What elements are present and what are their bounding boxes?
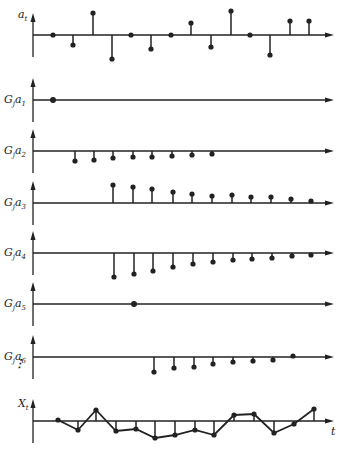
arrow-up-icon (31, 399, 36, 408)
data-point (170, 264, 175, 269)
arrow-right-icon (325, 33, 334, 38)
data-point (308, 252, 313, 257)
data-point (208, 44, 213, 49)
arrow-right-icon (325, 201, 334, 206)
data-point (91, 157, 96, 162)
data-point (148, 46, 153, 51)
time-axis-label: t (331, 425, 336, 438)
arrow-up-icon (31, 282, 36, 291)
arrow-right-icon (325, 419, 334, 424)
data-point (190, 261, 195, 266)
data-point (209, 193, 214, 198)
arrow-up-icon (31, 181, 36, 190)
panel-label: Gja5 (4, 297, 27, 312)
data-point (70, 42, 75, 47)
data-point (131, 301, 137, 307)
data-point (188, 20, 193, 25)
data-point (189, 191, 194, 196)
data-point (270, 357, 275, 362)
data-point (210, 361, 215, 366)
data-point (50, 32, 55, 37)
data-point (249, 256, 254, 261)
data-point (128, 32, 133, 37)
arrow-up-icon (31, 78, 36, 87)
data-point (230, 359, 235, 364)
panel-label: Gja1 (4, 93, 26, 108)
panel-4: Gja3 (4, 181, 334, 225)
data-point (130, 184, 135, 189)
panel-label: Gja3 (4, 196, 27, 211)
data-point (110, 182, 115, 187)
data-point (90, 10, 95, 15)
arrow-right-icon (325, 98, 334, 103)
data-point (50, 97, 56, 103)
data-point (269, 255, 274, 260)
arrow-up-icon (31, 335, 36, 344)
panel-label: Xt (17, 397, 29, 412)
data-point (248, 194, 253, 199)
panel-8: Xtt (17, 397, 336, 443)
arrow-up-icon (31, 231, 36, 240)
data-point (290, 353, 295, 358)
data-point (171, 365, 176, 370)
panel-2: Gja1 (4, 78, 334, 122)
data-point (267, 52, 272, 57)
data-point (151, 369, 156, 374)
panel-1: at (18, 8, 334, 62)
data-point (229, 192, 234, 197)
data-point (287, 18, 292, 23)
data-point (191, 364, 196, 369)
arrow-up-icon (31, 13, 36, 22)
data-point (110, 155, 115, 160)
data-point (169, 153, 174, 158)
data-point (150, 268, 155, 273)
data-point (308, 198, 313, 203)
data-point (131, 271, 136, 276)
data-point (149, 154, 154, 159)
panel-label: at (18, 8, 28, 23)
data-point (168, 32, 173, 37)
data-point (289, 253, 294, 258)
data-point (247, 32, 252, 37)
data-point (250, 358, 255, 363)
data-point (109, 56, 114, 61)
data-point (209, 151, 214, 156)
data-point (268, 194, 273, 199)
data-point (210, 259, 215, 264)
panel-3: Gja2 (4, 129, 334, 173)
arrow-right-icon (325, 302, 334, 307)
data-point (306, 18, 311, 23)
panel-5: Gja4 (4, 231, 334, 280)
data-point (189, 152, 194, 157)
data-point (72, 158, 77, 163)
arrow-right-icon (325, 149, 334, 154)
data-point (228, 8, 233, 13)
data-point (170, 189, 175, 194)
panel-6: Gja5 (4, 282, 334, 326)
data-point (111, 274, 116, 279)
data-point (149, 186, 154, 191)
data-point (288, 196, 293, 201)
data-point (230, 257, 235, 262)
arrow-right-icon (325, 355, 334, 360)
panel-label: Gja4 (4, 246, 26, 261)
arrow-right-icon (325, 251, 334, 256)
panel-label: Gja2 (4, 144, 27, 159)
panel-7: Gja6⋮ (4, 335, 334, 379)
continuation-ellipsis: ⋮ (14, 357, 25, 370)
arrow-up-icon (31, 129, 36, 138)
data-point (130, 154, 135, 159)
stem-decomposition-figure: atGja1Gja2Gja3Gja4Gja5Gja6⋮Xtt (0, 0, 352, 455)
